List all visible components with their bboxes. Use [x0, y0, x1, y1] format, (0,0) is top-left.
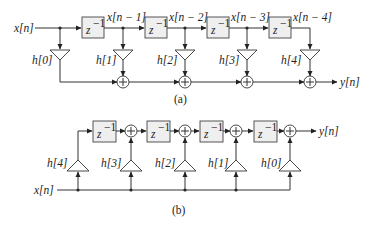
svg-text:−1: −1 [265, 121, 277, 133]
adder [241, 76, 253, 88]
delay-block: z −1 [82, 17, 105, 38]
adder [304, 76, 316, 88]
coef-label: h[1] [208, 157, 228, 169]
coef-label: h[3] [219, 54, 239, 66]
coef-label: h[0] [32, 54, 52, 66]
svg-text:z: z [203, 128, 209, 140]
multiplier-triangle [50, 50, 70, 60]
adder [117, 76, 129, 88]
multiplier-triangle [175, 50, 195, 60]
delay-block: z −1 [254, 121, 277, 142]
tap-label: x[n − 4] [292, 11, 332, 23]
delay-block: z −1 [200, 121, 223, 142]
svg-text:−1: −1 [211, 121, 223, 133]
tap-label: x[n − 2] [168, 11, 208, 23]
coef-label: h[3] [101, 157, 121, 169]
input-label-b: x[n] [33, 184, 54, 196]
coef-label: h[2] [157, 54, 177, 66]
svg-text:−1: −1 [280, 17, 292, 29]
multiplier-triangle [237, 50, 257, 60]
adder [284, 125, 296, 137]
svg-text:−1: −1 [104, 121, 116, 133]
multiplier-triangle [67, 160, 89, 171]
fir-filter-diagram: x[n] z −1 z −1 z −1 z −1 x[n − 1] [0, 0, 369, 226]
input-label-a: x[n] [13, 22, 34, 34]
caption-b: (b) [172, 204, 186, 217]
coef-label: h[1] [96, 54, 116, 66]
multiplier-triangle [279, 160, 301, 171]
svg-text:z: z [210, 24, 216, 36]
svg-text:−1: −1 [93, 17, 105, 29]
delay-block: z −1 [93, 121, 116, 142]
svg-text:z: z [272, 24, 278, 36]
svg-text:z: z [257, 128, 263, 140]
svg-text:−1: −1 [156, 17, 168, 29]
delay-block: z −1 [145, 17, 168, 38]
delay-block: z −1 [207, 17, 230, 38]
delay-block: z −1 [147, 121, 170, 142]
svg-text:z: z [150, 128, 156, 140]
svg-text:z: z [96, 128, 102, 140]
adder [230, 125, 242, 137]
svg-text:−1: −1 [218, 17, 230, 29]
svg-text:z: z [148, 24, 154, 36]
svg-text:z: z [85, 24, 91, 36]
adder [125, 125, 137, 137]
multiplier-triangle [174, 160, 196, 171]
direct-form-diagram: x[n] z −1 z −1 z −1 z −1 x[n − 1] [13, 11, 360, 106]
svg-text:−1: −1 [158, 121, 170, 133]
tap-label: x[n − 1] [106, 11, 146, 23]
caption-a: (a) [174, 93, 187, 106]
output-label-b: y[n] [318, 125, 339, 138]
coef-label: h[4] [281, 54, 301, 66]
adder [179, 125, 191, 137]
multiplier-triangle [120, 160, 142, 171]
output-label-a: y[n] [339, 76, 360, 89]
multiplier-triangle [300, 50, 320, 60]
coef-label: h[2] [155, 157, 175, 169]
delay-block: z −1 [269, 17, 292, 38]
tap-label: x[n − 3] [230, 11, 270, 23]
coef-label: h[0] [261, 157, 281, 169]
coef-label: h[4] [47, 157, 67, 169]
transposed-form-diagram: x[n] h[4] h[3] h[2] h[1] h[0] z [33, 121, 339, 217]
adder [179, 76, 191, 88]
